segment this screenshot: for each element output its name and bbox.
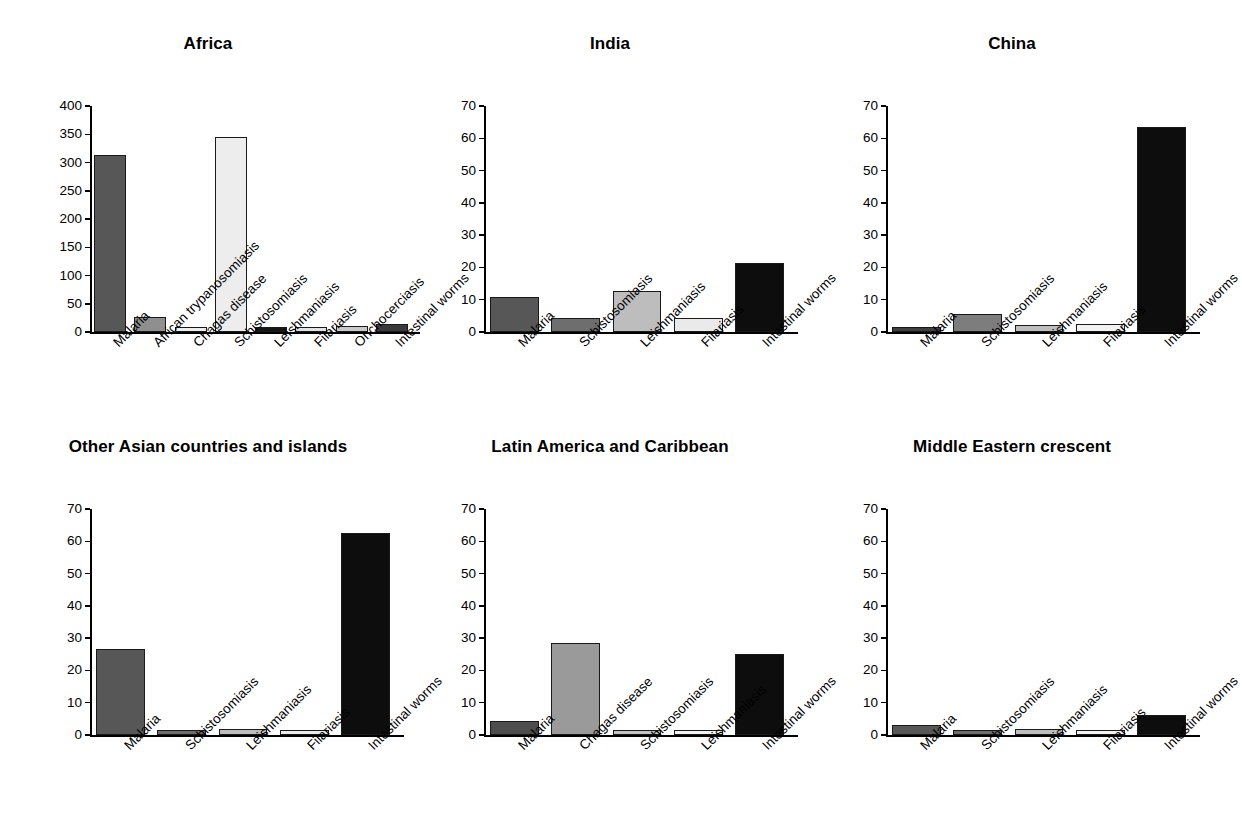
y-tick-label: 70 <box>834 99 878 113</box>
y-tick-label: 20 <box>834 260 878 274</box>
y-tick-label: 250 <box>38 184 82 198</box>
panel-title: Middle Eastern crescent <box>822 437 1202 457</box>
y-tick-label: 50 <box>834 164 878 178</box>
y-tick-label: 0 <box>38 325 82 339</box>
y-tick-label: 0 <box>432 325 476 339</box>
y-tick-label: 40 <box>432 196 476 210</box>
y-tick-label: 70 <box>432 99 476 113</box>
y-tick-label: 30 <box>834 631 878 645</box>
y-tick-label: 200 <box>38 212 82 226</box>
bar <box>94 155 126 332</box>
y-tick-label: 20 <box>834 663 878 677</box>
bar <box>96 649 145 735</box>
y-tick-label: 40 <box>38 599 82 613</box>
y-tick-label: 60 <box>834 534 878 548</box>
y-tick-label: 10 <box>432 293 476 307</box>
y-tick-label: 60 <box>432 534 476 548</box>
y-tick-label: 350 <box>38 127 82 141</box>
multi-panel-bar-chart-figure: Africa050100150200250300350400MalariaAfr… <box>0 0 1242 829</box>
y-tick-label: 30 <box>834 228 878 242</box>
y-tick-label: 40 <box>834 196 878 210</box>
panel-title: Other Asian countries and islands <box>18 437 398 457</box>
y-tick-label: 150 <box>38 240 82 254</box>
y-tick-label: 30 <box>432 228 476 242</box>
y-tick-label: 300 <box>38 156 82 170</box>
y-tick-label: 30 <box>38 631 82 645</box>
y-tick-label: 30 <box>432 631 476 645</box>
y-tick-label: 50 <box>38 297 82 311</box>
panel-title: China <box>822 34 1202 54</box>
y-tick-label: 40 <box>432 599 476 613</box>
chart-panel: Other Asian countries and islands0102030… <box>18 437 398 829</box>
y-tick-label: 50 <box>834 567 878 581</box>
y-tick-label: 10 <box>432 696 476 710</box>
y-tick-label: 50 <box>38 567 82 581</box>
y-tick-label: 0 <box>38 728 82 742</box>
y-tick-label: 20 <box>432 663 476 677</box>
y-tick-label: 50 <box>432 164 476 178</box>
y-tick-label: 60 <box>432 131 476 145</box>
y-tick-label: 70 <box>834 502 878 516</box>
bar <box>551 643 600 735</box>
chart-panel: Africa050100150200250300350400MalariaAfr… <box>18 34 398 472</box>
y-tick-label: 20 <box>38 663 82 677</box>
y-tick-label: 400 <box>38 99 82 113</box>
y-tick-label: 10 <box>38 696 82 710</box>
bar <box>1137 127 1186 332</box>
chart-panel: India010203040506070MalariaSchistosomias… <box>420 34 800 472</box>
chart-panel: China010203040506070MalariaSchistosomias… <box>822 34 1202 472</box>
chart-panel: Middle Eastern crescent010203040506070Ma… <box>822 437 1202 829</box>
y-tick-label: 10 <box>834 293 878 307</box>
y-tick-label: 10 <box>834 696 878 710</box>
y-tick-label: 50 <box>432 567 476 581</box>
y-tick-label: 70 <box>432 502 476 516</box>
y-tick-label: 0 <box>432 728 476 742</box>
y-tick-label: 60 <box>834 131 878 145</box>
y-tick-label: 0 <box>834 728 878 742</box>
chart-panel: Latin America and Caribbean0102030405060… <box>420 437 800 829</box>
y-tick-label: 0 <box>834 325 878 339</box>
y-tick-label: 20 <box>432 260 476 274</box>
y-tick-label: 70 <box>38 502 82 516</box>
y-tick-label: 60 <box>38 534 82 548</box>
panel-title: India <box>420 34 800 54</box>
panel-title: Latin America and Caribbean <box>420 437 800 457</box>
y-tick-label: 100 <box>38 269 82 283</box>
bar <box>341 533 390 735</box>
y-tick-label: 40 <box>834 599 878 613</box>
panel-title: Africa <box>18 34 398 54</box>
